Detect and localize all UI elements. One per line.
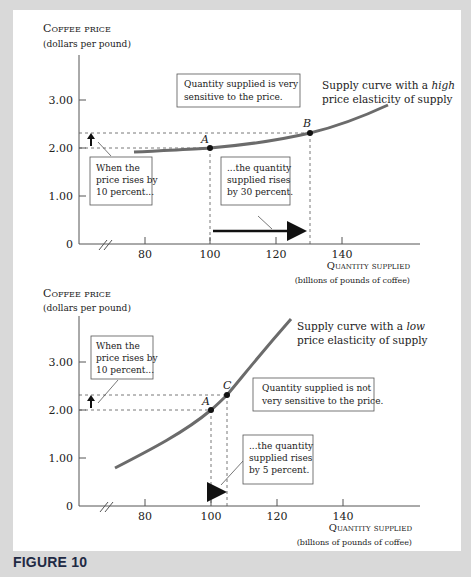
bottom-x-axis-title: Quantity supplied <box>329 522 413 533</box>
svg-text:price rises by: price rises by <box>96 175 159 185</box>
bottom-point-a-label: A <box>201 395 210 408</box>
top-x-tick: 100 <box>200 248 221 261</box>
svg-text:supplied rises: supplied rises <box>227 175 291 185</box>
top-price-rise-annotation: When the price rises by 10 percent... <box>90 157 159 205</box>
svg-text:price elasticity of supply: price elasticity of supply <box>297 334 428 346</box>
svg-text:Quantity supplied is not: Quantity supplied is not <box>262 383 372 393</box>
top-quantity-rise-annotation: ...the quantity supplied rises by 30 per… <box>221 157 293 205</box>
bottom-price-leader-line <box>98 380 118 403</box>
bottom-y-tick: 3.00 <box>49 356 74 369</box>
top-price-up-arrow-icon <box>87 133 95 146</box>
top-point-b-label: B <box>302 117 311 130</box>
top-y-tick: 3.00 <box>49 94 74 107</box>
svg-text:price rises by: price rises by <box>96 353 159 363</box>
top-quantity-leader-line <box>258 216 272 229</box>
top-x-tick: 80 <box>138 248 152 261</box>
top-axis-break-icon <box>99 240 112 250</box>
bottom-point-c-label: C <box>223 379 232 392</box>
top-y-axis-units: (dollars per pound) <box>43 39 131 49</box>
svg-text:Quantity supplied is very: Quantity supplied is very <box>184 79 299 89</box>
svg-text:price elasticity of supply: price elasticity of supply <box>322 93 453 105</box>
bottom-y-tick: 2.00 <box>49 404 74 417</box>
top-x-axis-title: Quantity supplied <box>327 260 411 271</box>
top-y-tick: 1.00 <box>49 190 74 203</box>
bottom-x-tick: 80 <box>138 510 152 523</box>
bottom-chart: Coffee price (dollars per pound) 3.00 2.… <box>43 287 428 547</box>
figure-caption-label: FIGURE 10 <box>13 554 87 570</box>
svg-text:Supply curve with a low: Supply curve with a low <box>297 320 425 332</box>
top-curve-legend: Supply curve with a high price elasticit… <box>322 79 455 105</box>
bottom-y-tick: 0 <box>66 500 73 513</box>
svg-text:supplied rises: supplied rises <box>249 453 313 463</box>
svg-text:Supply curve with a high: Supply curve with a high <box>322 79 455 91</box>
bottom-y-axis-units: (dollars per pound) <box>43 303 131 313</box>
svg-text:...the quantity: ...the quantity <box>249 441 314 451</box>
svg-text:by 5 percent.: by 5 percent. <box>249 465 309 475</box>
svg-text:very sensitive to the price.: very sensitive to the price. <box>261 396 383 406</box>
top-y-axis-title: Coffee price <box>43 22 111 35</box>
bottom-quantity-rise-annotation: ...the quantity supplied rises by 5 perc… <box>243 435 314 484</box>
bottom-point-c <box>224 392 230 398</box>
bottom-sensitivity-annotation: Quantity supplied is not very sensitive … <box>253 378 383 411</box>
bottom-y-tick: 1.00 <box>49 452 74 465</box>
top-point-a-label: A <box>200 133 209 146</box>
top-price-leader-line <box>98 142 111 156</box>
svg-text:When the: When the <box>96 341 140 351</box>
top-x-axis-units: (billions of pounds of coffee) <box>295 276 410 285</box>
top-y-tick: 2.00 <box>49 142 74 155</box>
bottom-quantity-leader-line <box>221 461 243 485</box>
bottom-x-tick: 100 <box>201 510 222 523</box>
bottom-y-axis-title: Coffee price <box>43 287 111 300</box>
bottom-axis-break-icon <box>100 502 113 512</box>
bottom-curve-legend: Supply curve with a low price elasticity… <box>297 320 428 346</box>
top-y-tick: 0 <box>66 238 73 251</box>
top-sensitivity-annotation: Quantity supplied is very sensitive to t… <box>177 74 300 107</box>
bottom-x-axis-units: (billions of pounds of coffee) <box>297 538 412 547</box>
top-point-b <box>307 130 313 136</box>
svg-text:...the quantity: ...the quantity <box>227 163 292 173</box>
top-supply-curve <box>134 105 388 152</box>
bottom-price-rise-annotation: When the price rises by 10 percent... <box>91 336 159 379</box>
charts-svg: Coffee price (dollars per pound) 3.00 2.… <box>0 0 471 577</box>
svg-text:10 percent...: 10 percent... <box>96 365 154 375</box>
top-x-tick: 120 <box>266 248 287 261</box>
svg-text:by 30 percent.: by 30 percent. <box>227 187 293 197</box>
bottom-price-up-arrow-icon <box>87 395 95 408</box>
bottom-x-tick: 120 <box>267 510 288 523</box>
svg-text:10 percent...: 10 percent... <box>96 187 154 197</box>
top-chart: Coffee price (dollars per pound) 3.00 2.… <box>43 22 455 285</box>
svg-text:sensitive to the price.: sensitive to the price. <box>184 92 283 102</box>
svg-text:When the: When the <box>96 163 140 173</box>
